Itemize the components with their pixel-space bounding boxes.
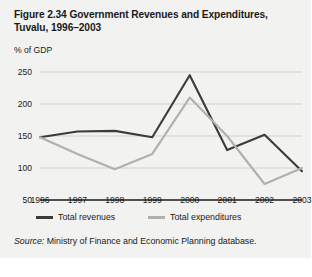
x-axis-tick: 2001 (212, 195, 242, 205)
chart-plot-area (0, 58, 311, 210)
legend-item: Total expenditures (148, 212, 241, 222)
x-axis-tick: 2003 (287, 195, 311, 205)
x-axis-tick: 2002 (250, 195, 280, 205)
legend-swatch (148, 216, 165, 219)
chart-legend: Total revenuesTotal expenditures (0, 212, 311, 228)
y-axis-tick: 200 (6, 99, 32, 109)
source-note: Source: Ministry of Finance and Economic… (14, 236, 304, 246)
y-axis-tick: 150 (6, 131, 32, 141)
x-axis-tick: 1999 (137, 195, 167, 205)
line-chart-svg (0, 58, 311, 210)
series-line (40, 75, 302, 171)
y-axis-tick: 250 (6, 67, 32, 77)
figure-panel: Figure 2.34 Government Revenues and Expe… (0, 0, 311, 258)
legend-label: Total revenues (58, 212, 115, 222)
figure-title: Figure 2.34 Government Revenues and Expe… (14, 8, 302, 34)
y-axis-caption: % of GDP (14, 45, 52, 55)
x-axis-tick-labels: 19961997199819992000200120022003 (0, 195, 311, 209)
x-axis-tick: 1998 (100, 195, 130, 205)
y-axis-tick: 100 (6, 163, 32, 173)
legend-label: Total expenditures (170, 212, 241, 222)
source-text: Ministry of Finance and Economic Plannin… (44, 236, 256, 246)
legend-swatch (36, 216, 53, 219)
y-axis-tick: 50 (6, 195, 32, 205)
source-label: Source: (14, 236, 44, 246)
series-line (40, 98, 302, 184)
x-axis-tick: 2000 (175, 195, 205, 205)
x-axis-tick: 1997 (62, 195, 92, 205)
legend-item: Total revenues (36, 212, 115, 222)
